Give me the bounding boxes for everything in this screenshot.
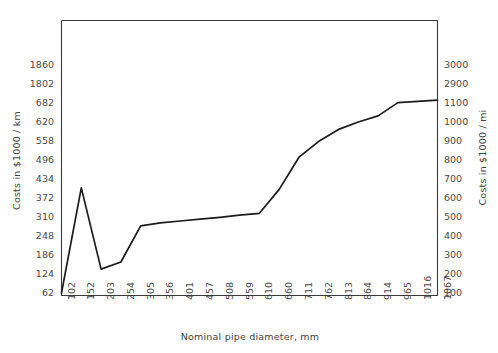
y-axis-left-title: Costs in $1000 / km bbox=[11, 91, 22, 231]
plot-area bbox=[0, 0, 498, 353]
y-axis-right-title: Costs in $1000 / mi bbox=[477, 88, 488, 228]
x-axis-title: Nominal pipe diameter, mm bbox=[140, 331, 360, 342]
data-series-line bbox=[62, 100, 438, 293]
line-chart: 6212418624831037243449655862068218021860… bbox=[0, 0, 498, 353]
axis-frame bbox=[62, 21, 438, 296]
